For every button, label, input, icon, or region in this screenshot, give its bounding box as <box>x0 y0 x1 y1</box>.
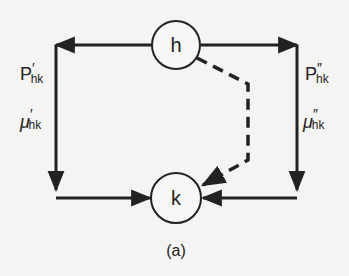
node-k: k <box>151 173 201 223</box>
edge-dashed <box>197 58 248 185</box>
label-p-double-prime-hk: P″hk <box>305 60 330 86</box>
node-h-label: h <box>170 34 181 56</box>
label-mu-prime-hk: μ′hk <box>19 106 42 132</box>
diagram-svg: h k P′hk μ′hk P″hk μ″hk (a) <box>0 0 349 276</box>
node-k-label: k <box>171 187 182 209</box>
label-mu-double-prime-hk: μ″hk <box>302 106 326 132</box>
diagram-canvas: h k P′hk μ′hk P″hk μ″hk (a) <box>0 0 349 276</box>
edge-left <box>56 45 152 198</box>
label-p-prime-hk: P′hk <box>20 60 44 86</box>
node-h: h <box>152 21 200 69</box>
figure-caption: (a) <box>166 242 186 259</box>
